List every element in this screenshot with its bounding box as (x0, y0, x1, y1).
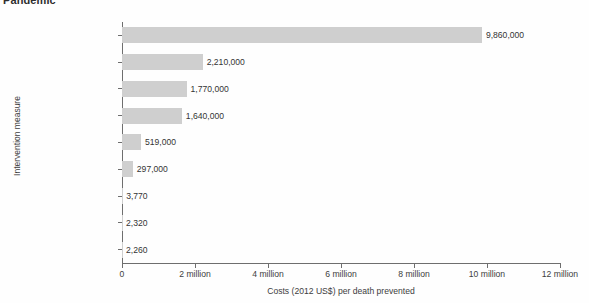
bar-row: Quarantine2,210,000 (122, 49, 560, 76)
bar-value-label: 3,770 (126, 191, 148, 201)
x-axis-tick (268, 263, 269, 268)
x-axis-tick-label: 10 million (469, 269, 505, 279)
bar-row: Face masks2,320 (122, 209, 560, 236)
chart-figure: Pandemic Intervention measure School clo… (0, 0, 589, 303)
x-axis-tick-label: 8 million (398, 269, 430, 279)
x-axis-tick-label: 0 (120, 269, 125, 279)
bar-row: Social distancing1,640,000 (122, 102, 560, 129)
bar-row: Surveillance3,770 (122, 183, 560, 210)
bar (122, 27, 482, 43)
bar-value-label: 2,210,000 (207, 57, 245, 67)
bar-row: Antiviral therapy1,770,000 (122, 76, 560, 103)
bar (122, 108, 182, 124)
bar-row: School closure9,860,000 (122, 22, 560, 49)
bar (122, 81, 187, 97)
bar-value-label: 9,860,000 (486, 30, 524, 40)
x-axis-tick (487, 263, 488, 268)
bar-value-label: 519,000 (145, 137, 176, 147)
y-axis-title: Intervention measure (12, 81, 22, 191)
x-axis-tick (195, 263, 196, 268)
bar (122, 134, 141, 150)
x-axis-tick (560, 263, 561, 268)
bar-value-label: 297,000 (137, 164, 168, 174)
x-axis-tick-label: 12 million (542, 269, 578, 279)
bar-row: Contact tracing2,260 (122, 236, 560, 263)
plot-area: School closure9,860,000Quarantine2,210,0… (122, 22, 560, 263)
bar-row: Vaccination297,000 (122, 156, 560, 183)
bar-value-label: 1,770,000 (191, 84, 229, 94)
bar (122, 54, 203, 70)
x-axis-tick-label: 2 million (179, 269, 211, 279)
chart-title: Pandemic (3, 0, 56, 6)
x-axis-tick-label: 6 million (325, 269, 357, 279)
x-axis-title: Costs (2012 US$) per death prevented (122, 286, 560, 296)
x-axis-tick-label: 4 million (252, 269, 284, 279)
bar-value-label: 1,640,000 (186, 111, 224, 121)
x-axis-tick (341, 263, 342, 268)
x-axis-tick (414, 263, 415, 268)
bar-row: Antiviral stockpile519,000 (122, 129, 560, 156)
bar-value-label: 2,260 (126, 245, 148, 255)
bar (122, 161, 133, 177)
bar-value-label: 2,320 (126, 218, 148, 228)
x-axis-tick (122, 263, 123, 268)
